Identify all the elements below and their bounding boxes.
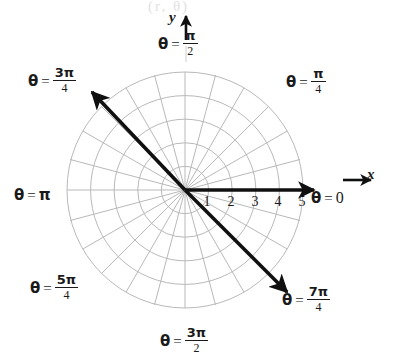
fraction-denominator: 2 [187,44,193,57]
ray-theta-3pi-4 [92,92,185,190]
tick-label-3: 3 [248,194,262,210]
theta-symbol: θ [30,281,40,296]
fraction-denominator: 2 [193,341,199,354]
theta-symbol: θ [28,74,38,89]
angle-value: 0 [336,190,344,206]
fraction-numerator: π [311,67,325,81]
angle-label-3pi-over-4: θ = 3π 4 [28,67,76,95]
angle-label-pi-over-2: θ = π 2 [158,30,198,58]
fraction-numerator: 5π [55,273,78,287]
tick-label-4: 4 [271,194,285,210]
polar-coordinate-figure: (r, θ) [0,0,396,362]
equals-symbol: = [43,281,51,296]
x-axis-label: x [367,167,375,182]
fraction: 3π 2 [185,326,208,354]
theta-symbol: θ [158,37,168,52]
equals-symbol: = [299,75,307,90]
fraction-numerator: 3π [53,66,76,80]
fraction-denominator: 4 [315,300,321,313]
angle-label-pi-over-4: θ = π 4 [286,68,326,96]
fraction-numerator: π [183,29,197,43]
theta-symbol: θ [311,191,321,206]
fraction-numerator: 3π [185,326,208,340]
fraction: 3π 4 [53,66,76,94]
theta-symbol: θ [282,293,292,308]
equals-symbol: = [173,334,181,349]
angle-label-5pi-over-4: θ = 5π 4 [30,274,78,302]
equals-symbol: = [27,188,35,203]
fraction-denominator: 4 [61,81,67,94]
equals-symbol: = [324,191,332,206]
fraction: π 4 [311,67,326,95]
y-axis-label: y [169,10,176,25]
polar-grid-svg [0,0,396,362]
fraction: 5π 4 [55,273,78,301]
tick-label-2: 2 [224,194,238,210]
fraction: 7π 4 [307,285,330,313]
angle-label-zero: θ = 0 [311,190,344,206]
angle-value: π [39,188,51,203]
tick-label-1: 1 [200,194,214,210]
fraction: π 2 [183,29,198,57]
theta-symbol: θ [14,188,24,203]
theta-symbol: θ [160,334,170,349]
fraction-denominator: 4 [63,288,69,301]
equals-symbol: = [171,37,179,52]
fraction-denominator: 4 [315,82,321,95]
angle-label-7pi-over-4: θ = 7π 4 [282,286,330,314]
equals-symbol: = [295,293,303,308]
theta-symbol: θ [286,75,296,90]
angle-label-pi: θ = π [14,188,51,203]
tick-label-5: 5 [295,194,309,210]
fraction-numerator: 7π [307,285,330,299]
angle-label-3pi-over-2: θ = 3π 2 [160,327,208,355]
equals-symbol: = [41,74,49,89]
